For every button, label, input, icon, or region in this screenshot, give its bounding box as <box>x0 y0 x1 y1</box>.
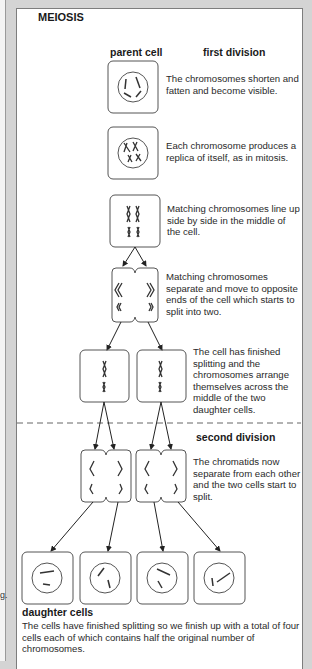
cell-box-splitting <box>136 450 186 502</box>
cell-anaphase-1 <box>112 268 158 322</box>
daughter-cells-text: The cells have finished splitting so we … <box>22 620 300 655</box>
paired-chromosomes <box>127 206 139 237</box>
arrow <box>95 402 104 449</box>
stage-text-anaphase-1: Matching chromosomes separate and move t… <box>166 271 301 317</box>
stage-text-metaphase-1: Matching chromosomes line up side by sid… <box>167 203 301 238</box>
cell-replication <box>108 127 158 179</box>
cell-box <box>110 195 160 247</box>
cell-metaphase-2-right <box>137 350 186 402</box>
arrow <box>148 322 162 350</box>
chromosomes <box>124 77 141 97</box>
arrow <box>123 247 135 266</box>
cell-metaphase-1 <box>110 195 160 247</box>
arrow <box>151 402 161 449</box>
arrow <box>104 402 114 449</box>
arrow <box>135 247 146 266</box>
daughter-cell-4 <box>194 552 245 604</box>
arrow <box>107 322 121 350</box>
nucleus-circle <box>118 72 148 102</box>
stage-text-anaphase-2: The chromatids now separate from each ot… <box>193 456 301 502</box>
cell-box <box>108 127 158 179</box>
arrow <box>154 502 163 551</box>
arrow <box>161 402 171 449</box>
separating-chromosomes <box>115 283 154 311</box>
stage-text-prophase: The chromosomes shorten and fatten and b… <box>166 73 301 96</box>
daughter-cell-3 <box>137 552 188 604</box>
stage-text-metaphase-2: The cell has finished splitting and the … <box>193 346 299 415</box>
cell-anaphase-2-left <box>81 450 131 502</box>
daughter-cell-2 <box>80 552 131 604</box>
cell-box <box>108 61 158 113</box>
stage-text-replication: Each chromosome produces a replica of it… <box>166 140 301 163</box>
cell-box-splitting <box>81 450 131 502</box>
heading-second-division: second division <box>196 431 275 443</box>
heading-daughter-cells: daughter cells <box>22 606 93 618</box>
arrow <box>108 502 118 551</box>
replicated-chromosomes <box>124 142 141 162</box>
cell-prophase <box>108 61 158 113</box>
cell-anaphase-2-right <box>136 450 186 502</box>
arrow <box>178 502 220 551</box>
cell-box <box>80 350 129 402</box>
cell-metaphase-2-left <box>80 350 129 402</box>
daughter-cell-1 <box>22 552 73 604</box>
arrow <box>51 502 93 551</box>
